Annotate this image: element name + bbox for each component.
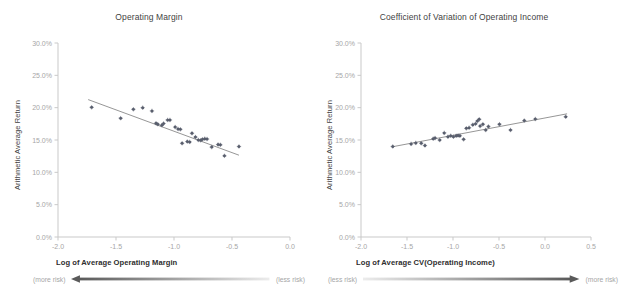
scatter-point <box>442 131 446 135</box>
x-axis-caption-right: Log of Average CV(Operating Income) <box>356 258 495 267</box>
scatter-point <box>533 117 537 121</box>
y-tick-label: 15.0% <box>32 137 52 144</box>
risk-gradient-row-left: (more risk) (less risk) <box>33 272 305 286</box>
chart-panel-operating-margin: Operating Margin Arithmetic Average Retu… <box>0 0 314 305</box>
scatter-point <box>508 128 512 132</box>
trendline <box>88 100 239 156</box>
x-tick-label: -1.0 <box>447 243 459 250</box>
risk-gradient-row-right: (less risk) (more risk) <box>328 272 618 286</box>
y-tick-label: 10.0% <box>335 169 355 176</box>
x-tick-label: -2.0 <box>355 243 367 250</box>
scatter-point <box>190 131 194 135</box>
scatter-point <box>131 107 135 111</box>
scatter-point <box>140 105 144 109</box>
x-tick-label: -1.5 <box>401 243 413 250</box>
risk-label-left-end: (less risk) <box>276 276 305 283</box>
y-tick-label: 15.0% <box>335 137 355 144</box>
y-tick-label: 5.0% <box>339 201 355 208</box>
y-tick-label: 20.0% <box>32 104 52 111</box>
two-panel-scatter-figure: Operating Margin Arithmetic Average Retu… <box>0 0 629 305</box>
scatter-point <box>414 141 418 145</box>
y-tick-label: 10.0% <box>32 169 52 176</box>
plot-area-left: 0.0%5.0%10.0%15.0%20.0%25.0%30.0%-2.0-1.… <box>0 0 314 250</box>
scatter-point <box>222 154 226 158</box>
y-tick-label: 30.0% <box>335 40 355 47</box>
scatter-point <box>409 142 413 146</box>
scatter-point <box>467 126 471 130</box>
scatter-point <box>180 141 184 145</box>
scatter-point <box>89 105 93 109</box>
x-tick-label: -2.0 <box>52 243 64 250</box>
x-tick-label: -1.5 <box>110 243 122 250</box>
y-tick-label: 20.0% <box>335 104 355 111</box>
scatter-point <box>118 116 122 120</box>
y-tick-label: 5.0% <box>36 201 52 208</box>
y-tick-label: 25.0% <box>335 72 355 79</box>
scatter-point <box>237 144 241 148</box>
scatter-point <box>150 109 154 113</box>
scatter-point <box>564 115 568 119</box>
y-tick-label: 30.0% <box>32 40 52 47</box>
scatter-point <box>391 144 395 148</box>
scatter-point <box>423 143 427 147</box>
risk-label-right-end: (more risk) <box>586 276 618 283</box>
x-tick-label: -1.0 <box>168 243 180 250</box>
x-tick-label: 0.0 <box>540 243 550 250</box>
risk-label-left-start: (more risk) <box>33 276 65 283</box>
y-tick-label: 25.0% <box>32 72 52 79</box>
x-tick-label: -0.5 <box>493 243 505 250</box>
plot-area-right: 0.0%5.0%10.0%15.0%20.0%25.0%30.0%-2.0-1.… <box>314 0 629 250</box>
scatter-point <box>483 128 487 132</box>
scatter-point <box>461 137 465 141</box>
x-tick-label: -0.5 <box>226 243 238 250</box>
x-axis-caption-left: Log of Average Operating Margin <box>56 258 177 267</box>
risk-label-right-start: (less risk) <box>328 276 357 283</box>
x-tick-label: 0.0 <box>285 243 295 250</box>
y-tick-label: 0.0% <box>36 234 52 241</box>
risk-arrow-right <box>363 273 579 285</box>
scatter-point <box>168 118 172 122</box>
x-tick-label: 0.5 <box>586 243 596 250</box>
chart-panel-cv-operating-income: Coefficient of Variation of Operating In… <box>314 0 629 305</box>
risk-arrow-left <box>71 273 269 285</box>
scatter-point <box>497 122 501 126</box>
y-tick-label: 0.0% <box>339 234 355 241</box>
